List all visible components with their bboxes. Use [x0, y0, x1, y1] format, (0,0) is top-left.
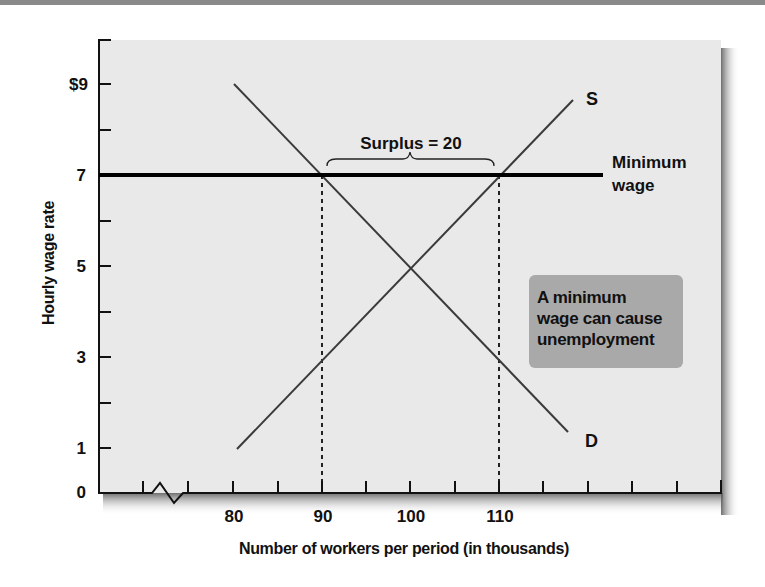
min-wage-label-line2: wage: [611, 176, 655, 195]
y-tick-3: 3: [77, 348, 86, 367]
y-tick-7: 7: [77, 166, 86, 185]
y-tick-0: 0: [77, 483, 86, 502]
panel-shadow-right: [721, 48, 739, 515]
min-wage-label-line1: Minimum: [612, 153, 687, 172]
y-tick-9: $9: [69, 75, 88, 94]
x-tick-90: 90: [314, 507, 333, 526]
x-tick-80: 80: [225, 507, 244, 526]
unemployment-note-text: A minimum wage can cause unemployment: [537, 287, 687, 350]
y-tick-1: 1: [77, 439, 86, 458]
y-tick-5: 5: [77, 257, 86, 276]
x-tick-110: 110: [486, 507, 513, 526]
x-tick-100: 100: [397, 507, 425, 526]
y-tick-labels: $9 7 5 3 1 0: [69, 75, 88, 502]
y-axis-label: Hourly wage rate: [40, 201, 58, 325]
supply-label: S: [586, 89, 598, 109]
surplus-label: Surplus = 20: [360, 134, 462, 153]
demand-label: D: [585, 431, 598, 451]
x-axis-label: Number of workers per period (in thousan…: [239, 540, 569, 558]
